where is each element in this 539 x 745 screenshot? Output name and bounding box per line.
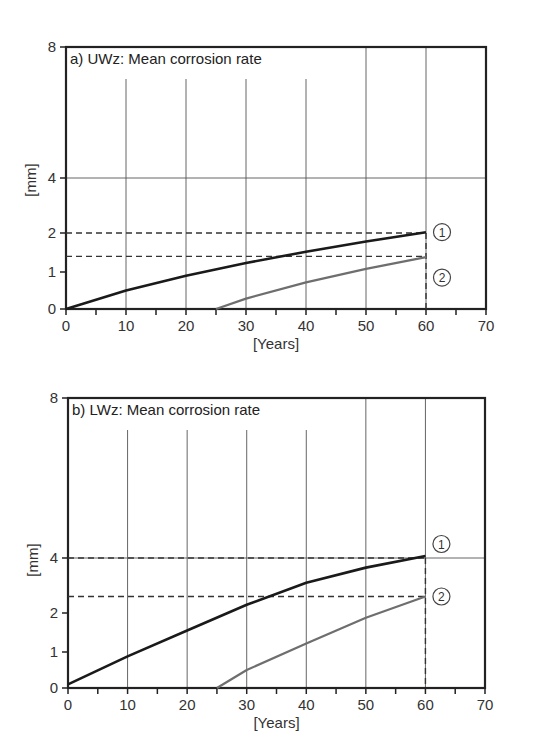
x-tick-label: 50 <box>358 696 375 713</box>
y-tick-label: 2 <box>50 604 58 621</box>
y-tick-label: 8 <box>50 389 58 406</box>
x-tick-label: 30 <box>238 317 255 334</box>
series-marker-label: 2 <box>439 271 446 285</box>
x-tick-label: 30 <box>238 696 255 713</box>
x-tick-label: 10 <box>118 317 135 334</box>
y-tick-label: 1 <box>50 643 58 660</box>
x-tick-label: 20 <box>178 317 195 334</box>
y-tick-label: 4 <box>50 549 58 566</box>
y-tick-label: 8 <box>48 38 56 55</box>
x-tick-label: 70 <box>478 317 495 334</box>
chart-panel-a: 01020304050607001248[Years][mm]a) UWz: M… <box>22 38 494 352</box>
x-tick-label: 10 <box>119 696 136 713</box>
y-tick-label: 0 <box>48 300 56 317</box>
y-axis-label: [mm] <box>22 163 39 196</box>
y-axis-label: [mm] <box>24 543 41 576</box>
x-tick-label: 20 <box>179 696 196 713</box>
series-line-2 <box>217 597 425 689</box>
chart-panel-b: 01020304050607001248[Years][mm]b) LWz: M… <box>24 389 493 731</box>
plot-frame <box>68 398 485 688</box>
x-tick-label: 70 <box>477 696 494 713</box>
x-tick-label: 40 <box>298 317 315 334</box>
y-tick-label: 2 <box>48 224 56 241</box>
panel-title: a) UWz: Mean corrosion rate <box>70 50 262 67</box>
y-tick-label: 1 <box>48 263 56 280</box>
series-marker-label: 2 <box>438 590 445 604</box>
x-axis-label: [Years] <box>253 714 299 731</box>
y-tick-label: 0 <box>50 679 58 696</box>
series-line-2 <box>216 257 426 309</box>
figure: 01020304050607001248[Years][mm]a) UWz: M… <box>0 0 539 745</box>
x-tick-label: 60 <box>418 317 435 334</box>
x-tick-label: 50 <box>358 317 375 334</box>
x-tick-label: 60 <box>417 696 434 713</box>
x-tick-label: 40 <box>298 696 315 713</box>
x-tick-label: 0 <box>62 317 70 334</box>
y-tick-label: 4 <box>48 169 56 186</box>
panel-title: b) LWz: Mean corrosion rate <box>72 401 260 418</box>
x-axis-label: [Years] <box>253 335 299 352</box>
series-marker-label: 1 <box>439 226 446 240</box>
x-tick-label: 0 <box>64 696 72 713</box>
series-marker-label: 1 <box>438 538 445 552</box>
